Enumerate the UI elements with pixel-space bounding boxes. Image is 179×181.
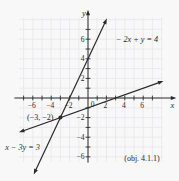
y-tick-label: −6	[77, 152, 85, 161]
equation-label: − 2x + y = 4	[116, 35, 158, 44]
intersection-point	[58, 116, 62, 120]
y-tick-label: −4	[77, 133, 85, 142]
equation-label: x − 3y = 3	[4, 143, 40, 152]
graph-canvas: xy−6−4−2246246−2−4−60− 2x + y = 4x − 3y …	[0, 0, 179, 181]
x-tick-label: 6	[140, 101, 144, 110]
y-tick-label: 2	[81, 74, 85, 83]
y-tick-label: −2	[77, 113, 85, 122]
point-label: (−3, −2)	[27, 113, 54, 122]
x-axis-label: x	[170, 100, 175, 110]
x-tick-label: −6	[28, 101, 36, 110]
y-axis-label: y	[81, 8, 86, 18]
y-tick-label: 4	[81, 54, 85, 63]
linear-system-graph-figure: xy−6−4−2246246−2−4−60− 2x + y = 4x − 3y …	[0, 0, 179, 181]
objective-annotation: (obj. 4.1.1)	[124, 154, 160, 163]
x-tick-label: −4	[46, 101, 54, 110]
y-tick-label: 6	[81, 35, 85, 44]
x-tick-label: 4	[122, 101, 126, 110]
